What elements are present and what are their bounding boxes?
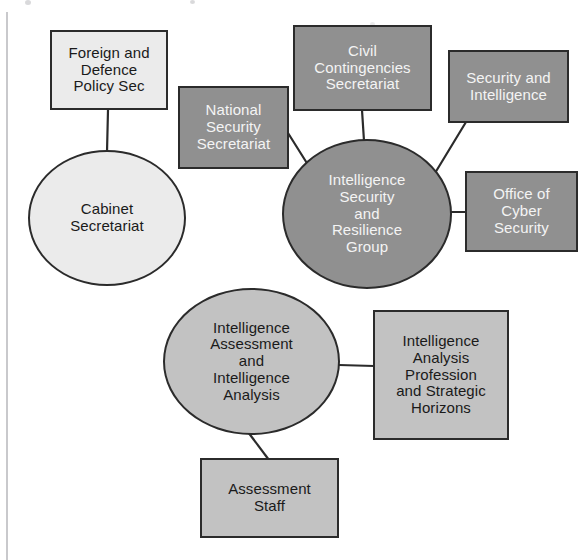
node-label: Cabinet Secretariat	[67, 201, 147, 235]
node-security-and-intelligence[interactable]: Security and Intelligence	[448, 50, 569, 123]
diagram-canvas: Foreign and Defence Policy Sec Cabinet S…	[0, 0, 585, 560]
node-intelligence-assessment-and-intelligence-analysis[interactable]: Intelligence Assessment and Intelligence…	[163, 288, 340, 435]
node-office-of-cyber-security[interactable]: Office of Cyber Security	[465, 171, 578, 252]
node-intelligence-analysis-profession-and-strategic-horizons[interactable]: Intelligence Analysis Profession and Str…	[373, 310, 509, 440]
node-label: Intelligence Assessment and Intelligence…	[207, 320, 296, 404]
node-foreign-defence-policy-sec[interactable]: Foreign and Defence Policy Sec	[50, 30, 168, 110]
node-cabinet-secretariat[interactable]: Cabinet Secretariat	[28, 150, 186, 286]
edge-security-intelligence-to-isr	[432, 122, 466, 178]
node-national-security-secretariat[interactable]: National Security Secretariat	[178, 86, 289, 169]
node-label: Foreign and Defence Policy Sec	[65, 45, 152, 95]
node-label: Office of Cyber Security	[490, 186, 552, 236]
edge-assessment-to-assessment-staff	[248, 432, 269, 460]
node-label: Civil Contingencies Secretariat	[311, 43, 413, 93]
node-label: Intelligence Security and Resilience Gro…	[325, 172, 408, 256]
node-assessment-staff[interactable]: Assessment Staff	[200, 458, 339, 538]
edge-assessment-to-profession	[339, 365, 374, 366]
node-label: Assessment Staff	[225, 481, 314, 515]
edge-foreign-defence-to-cabinet	[107, 110, 108, 152]
node-label: National Security Secretariat	[194, 102, 274, 152]
node-civil-contingencies-secretariat[interactable]: Civil Contingencies Secretariat	[293, 25, 432, 111]
node-intelligence-security-and-resilience-group[interactable]: Intelligence Security and Resilience Gro…	[282, 139, 452, 289]
node-label: Security and Intelligence	[463, 70, 554, 104]
node-label: Intelligence Analysis Profession and Str…	[393, 333, 489, 417]
edge-civil-contingencies-to-isr	[362, 110, 364, 141]
